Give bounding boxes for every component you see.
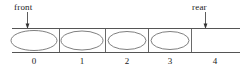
cell-index-4: 4 bbox=[205, 56, 225, 67]
cell-index-3: 3 bbox=[160, 56, 180, 67]
cell-index-2: 2 bbox=[117, 56, 137, 67]
queue-diagram: front rear 0 1 2 3 4 bbox=[0, 0, 248, 70]
queue-element-3 bbox=[151, 32, 189, 50]
cell-index-0: 0 bbox=[24, 56, 44, 67]
cell-index-1: 1 bbox=[72, 56, 92, 67]
queue-element-1 bbox=[61, 31, 103, 50]
queue-element-0 bbox=[11, 31, 57, 51]
queue-element-2 bbox=[108, 32, 146, 50]
